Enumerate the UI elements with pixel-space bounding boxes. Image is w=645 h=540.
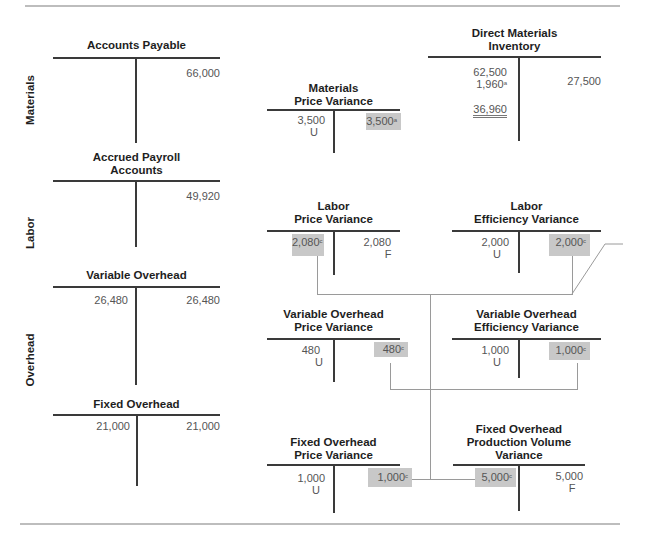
connector-diagonal-to-cogs (0, 0, 645, 540)
